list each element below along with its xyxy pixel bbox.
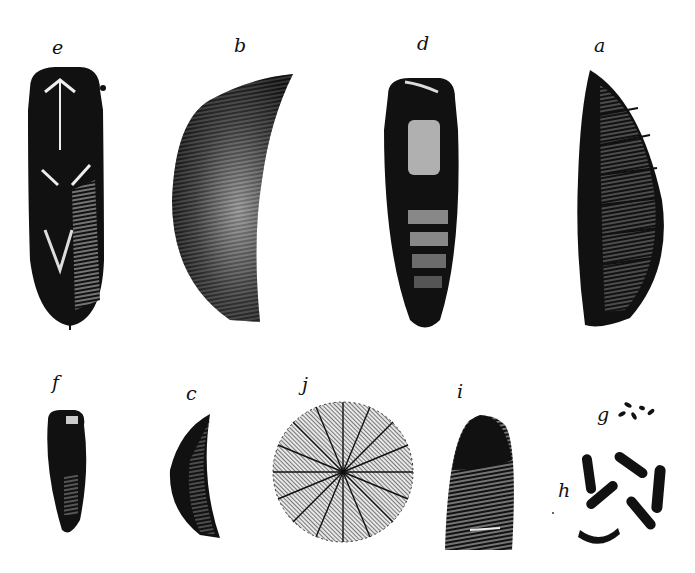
figure-j-texture	[273, 402, 413, 542]
engraving-plate: e b d a f c j i g h	[0, 0, 695, 573]
figure-i-end-detail	[445, 415, 514, 550]
figure-d-pupa	[384, 78, 459, 328]
figure-e-pupa	[28, 67, 106, 330]
figure-a-puparium	[577, 70, 664, 326]
figure-g-eggs	[618, 401, 656, 420]
figure-b-puparium	[172, 74, 293, 322]
illustrations	[0, 0, 695, 573]
figure-f-pupa	[47, 410, 86, 532]
figure-c-puparium	[170, 414, 220, 538]
figure-h-eggs	[552, 450, 666, 544]
